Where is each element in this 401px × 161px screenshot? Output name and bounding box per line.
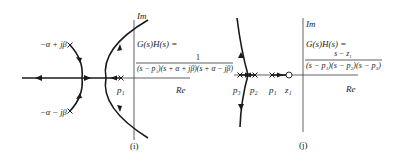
arrow-right-icon: [277, 73, 283, 78]
arrow-left-icon: [35, 75, 42, 81]
transfer-function-denominator-j: (s − p₁)(s − p₂)(s − p₃): [306, 61, 381, 70]
locus-branch-asymptotic-i: [105, 20, 148, 138]
pole-label-p2-j: p₂: [249, 85, 258, 95]
imag-axis-label-j: Im: [305, 19, 316, 29]
transfer-function-lhs-i: G(s)H(s) =: [137, 39, 177, 49]
arrow-down-icon: [238, 104, 244, 110]
figure-j: Im Re p₃ p₂ p₁ z₁ G(s)H(s) = s: [232, 18, 382, 150]
arrow-right-icon: [84, 75, 91, 81]
caption-i: (i): [130, 141, 139, 151]
zero-z1-j: [286, 72, 292, 78]
caption-j: (j): [299, 140, 308, 150]
transfer-function-denominator-i: (s − p₁)(s + α + jβ)(s + α − jβ): [137, 64, 233, 73]
pole-label-p1-i: p₁: [116, 85, 125, 95]
figure-i: Im Re p₁ −α + jβ −α − jβ: [22, 11, 233, 151]
pole-label-upper-complex-i: −α + jβ: [40, 39, 68, 49]
pole-lower-complex-i: [68, 109, 73, 114]
arrow-left-icon: [110, 76, 117, 81]
transfer-function-numerator-i: 1: [196, 53, 200, 62]
pole-label-p3-j: p₃: [232, 85, 241, 95]
transfer-function-numerator-j: s − z₁: [334, 49, 352, 58]
pole-label-lower-complex-i: −α − jβ: [40, 107, 68, 117]
real-axis-label-i: Re: [175, 85, 186, 95]
arrow-up-icon: [117, 44, 122, 51]
arrow-down-icon: [117, 105, 122, 112]
transfer-function-lhs-j: G(s)H(s) =: [306, 39, 346, 49]
root-locus-figure: Im Re p₁ −α + jβ −α − jβ: [0, 0, 401, 161]
imag-axis-label-i: Im: [136, 11, 147, 21]
pole-upper-complex-i: [68, 43, 73, 48]
real-axis-label-j: Re: [345, 84, 356, 94]
zero-label-z1-j: z₁: [284, 85, 292, 95]
pole-label-p1-j: p₁: [268, 85, 277, 95]
